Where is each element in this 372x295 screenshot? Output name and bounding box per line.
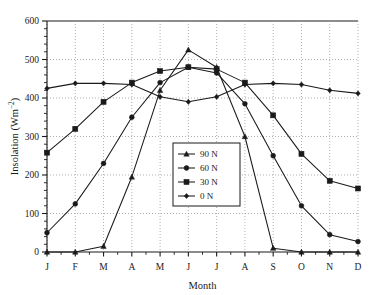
series-marker-30-n — [158, 69, 163, 74]
series-marker-60-n — [299, 203, 304, 208]
series-marker-0-n — [299, 82, 304, 87]
series-marker-30-n — [186, 65, 191, 70]
series-marker-0-n — [214, 94, 219, 99]
series-marker-90-n — [242, 134, 247, 139]
y-tick-label: 400 — [25, 93, 40, 103]
x-tick-label-N: N — [326, 262, 333, 272]
legend-marker-30-n — [184, 180, 189, 185]
series-marker-30-n — [73, 126, 78, 131]
series-marker-60-n — [158, 80, 163, 85]
x-tick-label-A: A — [128, 262, 135, 272]
x-tick-label-M: M — [99, 262, 108, 272]
series-marker-90-n — [270, 245, 275, 250]
series-marker-60-n — [129, 115, 134, 120]
series-marker-30-n — [356, 186, 361, 191]
series-marker-0-n — [271, 81, 276, 86]
y-tick-label: 600 — [25, 16, 40, 26]
series-marker-60-n — [73, 201, 78, 206]
insolation-chart: 0100200300400500600JFMAMJJASOND90 N60 N3… — [0, 0, 372, 295]
x-tick-label-F: F — [73, 262, 78, 272]
legend-marker-60-n — [184, 166, 189, 171]
series-marker-0-n — [73, 81, 78, 86]
chart-canvas: 0100200300400500600JFMAMJJASOND90 N60 N3… — [0, 0, 372, 295]
y-tick-label: 500 — [25, 55, 40, 65]
y-tick-label: 200 — [25, 170, 40, 180]
y-axis-title: Insolation (Wm−2) — [8, 97, 21, 175]
series-marker-30-n — [271, 113, 276, 118]
x-tick-label-A: A — [241, 262, 248, 272]
series-marker-30-n — [101, 99, 106, 104]
series-marker-30-n — [45, 150, 50, 155]
series-marker-30-n — [299, 151, 304, 156]
series-marker-90-n — [129, 174, 134, 179]
x-tick-label-M: M — [156, 262, 165, 272]
series-line-0-n — [47, 83, 358, 101]
series-marker-60-n — [327, 232, 332, 237]
series-marker-30-n — [214, 67, 219, 72]
legend-label-0-n: 0 N — [200, 191, 214, 201]
legend-label-60-n: 60 N — [200, 163, 218, 173]
series-marker-0-n — [327, 88, 332, 93]
x-tick-label-J: J — [45, 262, 49, 272]
series-marker-60-n — [243, 101, 248, 106]
x-tick-label-J: J — [187, 262, 191, 272]
series-marker-0-n — [101, 81, 106, 86]
legend-label-30-n: 30 N — [200, 177, 218, 187]
y-tick-label: 300 — [25, 132, 40, 142]
series-marker-30-n — [327, 178, 332, 183]
y-tick-label: 100 — [25, 209, 40, 219]
y-tick-label: 0 — [34, 247, 39, 257]
series-marker-90-n — [101, 243, 106, 248]
series-marker-60-n — [45, 230, 50, 235]
series-marker-60-n — [101, 161, 106, 166]
x-tick-label-J: J — [215, 262, 219, 272]
series-marker-60-n — [271, 153, 276, 158]
x-axis-title: Month — [188, 280, 217, 291]
series-marker-0-n — [356, 91, 361, 96]
series-marker-0-n — [186, 99, 191, 104]
x-tick-label-O: O — [298, 262, 305, 272]
legend-label-90-n: 90 N — [200, 149, 218, 159]
series-marker-90-n — [186, 47, 191, 52]
x-tick-label-D: D — [355, 262, 362, 272]
x-tick-label-S: S — [271, 262, 276, 272]
series-marker-60-n — [356, 239, 361, 244]
